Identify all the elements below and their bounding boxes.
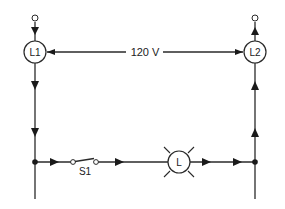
junction-right xyxy=(252,159,258,165)
switch-s1: S1 xyxy=(71,159,99,178)
lamp-ray-icon xyxy=(164,171,170,177)
lamp-ray-icon xyxy=(188,171,194,177)
terminal-l1 xyxy=(32,15,38,21)
lamp-ray-icon xyxy=(164,147,170,153)
arrow-up-icon xyxy=(251,128,259,137)
arrow-right-icon xyxy=(233,158,242,166)
arrow-left-icon xyxy=(47,49,55,55)
arrow-right-icon xyxy=(202,158,211,166)
lamp-label: L xyxy=(176,157,182,168)
lamp-l: L xyxy=(164,147,194,177)
junction-left xyxy=(32,159,38,165)
arrow-down-icon xyxy=(31,128,39,137)
s1-label: S1 xyxy=(79,166,92,177)
terminal-l2 xyxy=(252,15,258,21)
voltage-label: 120 V xyxy=(131,46,160,58)
line-l2: L2 xyxy=(244,41,266,63)
arrow-up-icon xyxy=(251,81,259,90)
arrow-right-icon xyxy=(115,158,124,166)
arrow-down-icon xyxy=(31,81,39,90)
line-l1: L1 xyxy=(24,41,46,63)
lamp-ray-icon xyxy=(188,147,194,153)
arrow-right-icon xyxy=(50,158,59,166)
l1-label: L1 xyxy=(29,47,41,58)
arrow-down-icon xyxy=(31,27,39,35)
arrow-right-icon xyxy=(235,49,243,55)
circuit-diagram: L1 L2 120 V S1 L xyxy=(0,0,285,209)
l2-label: L2 xyxy=(249,47,261,58)
arrow-up-icon xyxy=(251,27,259,35)
